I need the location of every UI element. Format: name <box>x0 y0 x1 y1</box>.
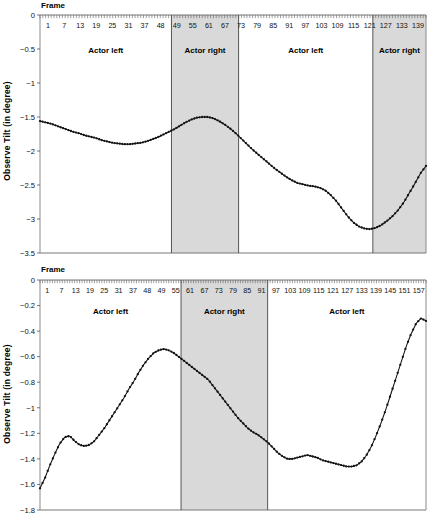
x-tick-label: 31 <box>124 21 132 30</box>
y-tick-label: −1 <box>26 79 35 88</box>
series-marker <box>106 423 108 425</box>
series-marker <box>232 130 234 132</box>
series-marker <box>229 407 231 409</box>
x-tick-label: 7 <box>62 21 66 30</box>
series-marker <box>404 348 406 350</box>
series-marker <box>134 142 136 144</box>
series-marker <box>103 140 105 142</box>
series-marker <box>201 116 203 118</box>
series-marker <box>337 463 339 465</box>
series-marker <box>270 165 272 167</box>
series-marker <box>147 140 149 142</box>
x-tick-label: 73 <box>215 286 223 295</box>
series-marker <box>340 464 342 466</box>
series-marker <box>247 428 249 430</box>
series-marker <box>224 400 226 402</box>
y-tick-label: −0.5 <box>20 45 35 54</box>
series-marker <box>368 228 370 230</box>
y-tick-label: −2 <box>26 147 35 156</box>
y-tick-label: −1.4 <box>20 455 35 464</box>
series-marker <box>222 122 224 124</box>
series-marker <box>165 348 167 350</box>
x-tick-label: 109 <box>298 286 310 295</box>
x-tick-label: 139 <box>412 21 424 30</box>
series-marker <box>83 445 85 447</box>
x-tick-label: 85 <box>243 286 251 295</box>
series-marker <box>41 121 43 123</box>
series-marker <box>399 206 401 208</box>
y-tick-label: −0.6 <box>20 352 35 361</box>
series-marker <box>201 374 203 376</box>
x-tick-label: 19 <box>86 286 94 295</box>
x-tick-label: 13 <box>76 21 84 30</box>
series-marker <box>268 443 270 445</box>
series-marker <box>160 135 162 137</box>
series-marker <box>88 444 90 446</box>
series-marker <box>216 391 218 393</box>
series-marker <box>263 438 265 440</box>
series-marker <box>348 216 350 218</box>
series-marker <box>381 418 383 420</box>
series-marker <box>306 184 308 186</box>
series-marker <box>242 422 244 424</box>
series-marker <box>65 128 67 130</box>
series-marker <box>137 142 139 144</box>
series-marker <box>178 356 180 358</box>
series-marker <box>366 454 368 456</box>
series-marker <box>397 372 399 374</box>
series-marker <box>361 460 363 462</box>
series-marker <box>240 420 242 422</box>
x-tick-label: 49 <box>173 21 181 30</box>
chart-bottom: Observe Tilt (in degree) Frame 171319253… <box>0 262 434 525</box>
series-marker <box>134 378 136 380</box>
series-marker <box>291 179 293 181</box>
series-marker <box>232 410 234 412</box>
series-marker <box>296 456 298 458</box>
series-marker <box>255 433 257 435</box>
series-marker <box>191 366 193 368</box>
series-marker <box>162 348 164 350</box>
series-marker <box>209 116 211 118</box>
series-marker <box>355 464 357 466</box>
series-marker <box>137 373 139 375</box>
series-marker <box>324 460 326 462</box>
series-marker <box>57 446 59 448</box>
series-marker <box>363 227 365 229</box>
series-marker <box>234 132 236 134</box>
series-marker <box>276 451 278 453</box>
series-marker <box>386 404 388 406</box>
series-marker <box>258 154 260 156</box>
series-marker <box>152 138 154 140</box>
series-marker <box>49 122 51 124</box>
series-marker <box>376 432 378 434</box>
series-marker <box>175 127 177 129</box>
series-marker <box>319 458 321 460</box>
series-marker <box>54 451 56 453</box>
series-marker <box>113 411 115 413</box>
series-marker <box>384 411 386 413</box>
series-marker <box>139 369 141 371</box>
series-marker <box>168 131 170 133</box>
series-marker <box>72 131 74 133</box>
x-tick-label: 61 <box>186 286 194 295</box>
series-marker <box>47 122 49 124</box>
figure-container: Observe Tilt (in degree) Frame 171319253… <box>0 0 434 525</box>
series-marker <box>319 187 321 189</box>
series-marker <box>108 419 110 421</box>
series-marker <box>157 136 159 138</box>
series-marker <box>150 139 152 141</box>
series-marker <box>144 141 146 143</box>
series-marker <box>399 364 401 366</box>
y-tick-label: −1.2 <box>20 429 35 438</box>
series-marker <box>59 126 61 128</box>
series-marker <box>44 476 46 478</box>
series-marker <box>368 449 370 451</box>
series-marker <box>412 185 414 187</box>
series-marker <box>402 203 404 205</box>
series-marker <box>49 463 51 465</box>
series-marker <box>389 217 391 219</box>
series-marker <box>206 378 208 380</box>
series-marker <box>340 206 342 208</box>
x-tick-label: 73 <box>237 21 245 30</box>
series-marker <box>173 352 175 354</box>
